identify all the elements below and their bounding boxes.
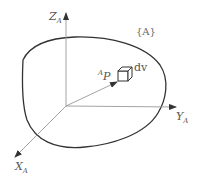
frame-label: {A} [136,27,156,37]
volume-element-cube [118,67,132,81]
z-axis-label: ZA [49,11,62,25]
x-axis [15,106,66,157]
y-axis [66,106,176,107]
y-axis-label: YA [176,111,188,125]
vector-label: AP [98,70,110,82]
coordinate-frame-diagram: ZA YA XA {A} AP dv [0,0,199,181]
volume-element-label: dv [134,62,147,73]
position-vector [66,82,117,106]
diagram-canvas [0,0,199,181]
body-outline [22,37,165,148]
x-axis-label: XA [15,161,28,175]
